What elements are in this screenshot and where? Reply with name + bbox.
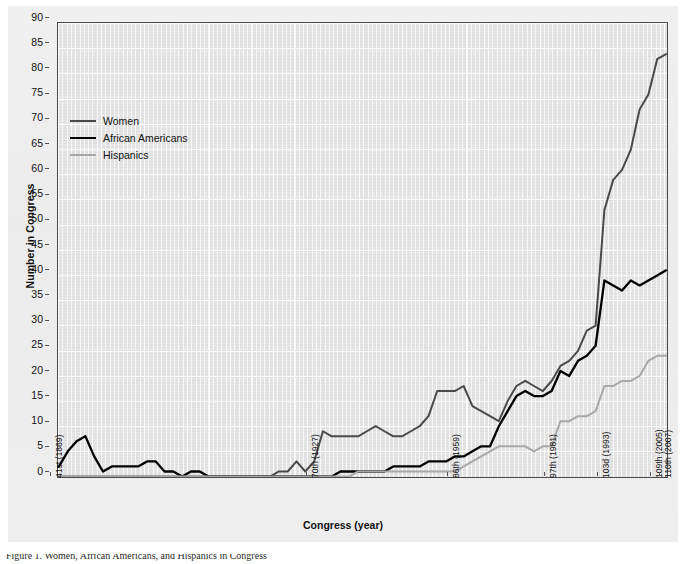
- legend-item-hispanics: Hispanics: [70, 148, 188, 162]
- legend-item-women: Women: [70, 114, 188, 128]
- legend-label: Hispanics: [103, 150, 149, 161]
- figure-page: WomenAfrican AmericansHispanics Number i…: [0, 0, 686, 564]
- x-axis-tick-mark: [659, 472, 660, 476]
- x-axis-tick-label: 110th (2007): [663, 430, 673, 478]
- x-axis-tick-mark: [597, 472, 598, 476]
- cropped-caption: Figure 1. Women, African Americans, and …: [0, 554, 686, 564]
- chart-legend: WomenAfrican AmericansHispanics: [70, 114, 188, 165]
- x-axis-title: Congress (year): [0, 519, 686, 531]
- series-line-hispanics: [59, 356, 666, 477]
- series-line-african-americans: [59, 270, 666, 476]
- legend-label: African Americans: [103, 133, 188, 144]
- legend-swatch-icon: [70, 120, 96, 122]
- x-axis-tick-label: 97th (1981): [548, 434, 558, 478]
- x-axis-tick-label: 41st (1869): [54, 435, 64, 478]
- legend-swatch-icon: [70, 137, 96, 140]
- legend-item-african-americans: African Americans: [70, 131, 188, 145]
- y-axis-title: Number in Congress: [24, 166, 36, 306]
- x-axis-tick-mark: [447, 472, 448, 476]
- legend-label: Women: [103, 116, 139, 127]
- x-axis-tick-label: 70th (1927): [310, 434, 320, 478]
- x-axis-tick-label: 103d (1993): [601, 432, 611, 478]
- chart-figure: WomenAfrican AmericansHispanics Number i…: [8, 6, 678, 542]
- x-axis-tick-mark: [544, 472, 545, 476]
- x-axis-tick-label: 86th (1959): [451, 434, 461, 478]
- x-axis-tick-mark: [306, 472, 307, 476]
- plot-area: [57, 22, 668, 478]
- series-lines: [58, 23, 667, 478]
- x-axis-tick-mark: [50, 472, 51, 476]
- caption-text: Figure 1. Women, African Americans, and …: [6, 554, 267, 561]
- x-axis-tick-mark: [650, 472, 651, 476]
- legend-swatch-icon: [70, 154, 96, 156]
